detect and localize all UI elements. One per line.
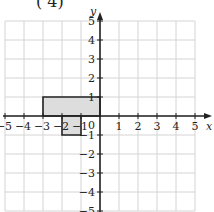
y-tick-label: 4: [88, 34, 95, 47]
x-axis-arrow-icon: [204, 113, 212, 119]
origin-label: 0: [88, 119, 95, 132]
y-tick-label: 2: [88, 72, 95, 85]
x-tick-label: −2: [53, 120, 69, 133]
x-tick-label: 2: [135, 120, 142, 133]
coordinate-plane: xy−5−4−3−2−11234554321−1−2−3−4−50: [0, 0, 214, 212]
x-tick-label: 4: [173, 120, 180, 133]
y-tick-label: −3: [79, 167, 95, 180]
x-tick-label: 1: [116, 120, 123, 133]
y-tick-label: −5: [79, 205, 95, 212]
y-tick-label: 1: [88, 91, 95, 104]
x-tick-label: 3: [154, 120, 161, 133]
x-tick-label: −3: [34, 120, 50, 133]
y-tick-label: 3: [88, 53, 95, 66]
y-axis-arrow-icon: [97, 12, 103, 20]
y-tick-label: −4: [79, 186, 95, 199]
y-tick-label: −2: [79, 148, 95, 161]
x-tick-label: −4: [15, 120, 31, 133]
x-tick-label: 5: [192, 120, 199, 133]
x-axis-label: x: [206, 120, 213, 133]
x-tick-label: −5: [0, 120, 12, 133]
y-tick-label: 5: [88, 15, 95, 28]
